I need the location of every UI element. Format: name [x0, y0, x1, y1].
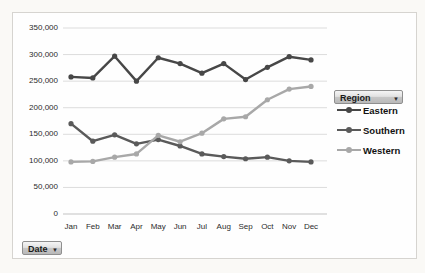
date-filter-button[interactable]: Date ▼ [22, 241, 62, 255]
dropdown-arrow-icon: ▼ [393, 93, 399, 105]
data-point-marker [287, 87, 292, 92]
x-axis-tick-label: Jun [168, 222, 192, 232]
x-axis-tick-label: Oct [255, 222, 279, 232]
series-line-eastern [68, 54, 313, 84]
data-point-marker [221, 61, 226, 66]
data-point-marker [134, 141, 139, 146]
legend-item-western: Western [337, 144, 400, 156]
x-axis-tick-label: May [146, 222, 170, 232]
data-point-marker [90, 139, 95, 144]
data-point-marker [112, 54, 117, 59]
y-axis-tick-label: 300,000 [13, 50, 58, 60]
date-button-label: Date [28, 243, 48, 255]
data-point-marker [90, 75, 95, 80]
x-axis-tick-label: Nov [277, 222, 301, 232]
legend-marker-icon [337, 106, 361, 114]
data-point-marker [178, 139, 183, 144]
data-point-marker [221, 116, 226, 121]
data-point-marker [112, 132, 117, 137]
y-axis-tick-label: 50,000 [13, 182, 58, 192]
data-point-marker [265, 155, 270, 160]
data-point-marker [308, 57, 313, 62]
legend-item-southern: Southern [337, 124, 405, 136]
x-axis-tick-label: Apr [124, 222, 148, 232]
x-axis-tick-label: Jan [59, 222, 83, 232]
data-point-marker [68, 159, 73, 164]
legend-marker-icon [337, 126, 361, 134]
data-point-marker [287, 158, 292, 163]
data-point-marker [156, 55, 161, 60]
legend-marker-icon [337, 146, 361, 154]
y-axis-tick-label: 150,000 [13, 129, 58, 139]
x-axis-tick-label: Feb [81, 222, 105, 232]
legend-item-eastern: Eastern [337, 104, 398, 116]
y-axis-tick-label: 200,000 [13, 103, 58, 113]
x-axis-tick-label: Aug [212, 222, 236, 232]
data-point-marker [243, 77, 248, 82]
data-point-marker [90, 159, 95, 164]
data-point-marker [308, 159, 313, 164]
data-point-marker [68, 121, 73, 126]
pivot-chart-window: 050,000100,000150,000200,000250,000300,0… [0, 0, 425, 273]
data-point-marker [308, 84, 313, 89]
y-axis-tick-label: 100,000 [13, 156, 58, 166]
y-axis-tick-label: 0 [13, 209, 58, 219]
data-point-marker [265, 97, 270, 102]
region-button-label: Region [340, 92, 371, 104]
data-point-marker [287, 54, 292, 59]
data-point-marker [199, 131, 204, 136]
data-point-marker [265, 65, 270, 70]
data-point-marker [199, 71, 204, 76]
data-point-marker [134, 151, 139, 156]
x-axis-tick-label: Mar [103, 222, 127, 232]
data-point-marker [134, 79, 139, 84]
legend-label: Eastern [363, 105, 398, 116]
legend-label: Southern [363, 125, 405, 136]
x-axis-tick-label: Sep [234, 222, 258, 232]
series-line-western [68, 84, 313, 165]
data-point-marker [112, 155, 117, 160]
data-point-marker [243, 156, 248, 161]
chart-frame: 050,000100,000150,000200,000250,000300,0… [12, 12, 417, 259]
data-point-marker [199, 151, 204, 156]
y-axis-tick-label: 250,000 [13, 76, 58, 86]
data-point-marker [221, 154, 226, 159]
x-axis-tick-label: Jul [190, 222, 214, 232]
region-filter-button[interactable]: Region ▼ [334, 90, 403, 104]
data-point-marker [156, 133, 161, 138]
y-axis-tick-label: 350,000 [13, 23, 58, 33]
x-axis-tick-label: Dec [299, 222, 323, 232]
data-point-marker [178, 61, 183, 66]
data-point-marker [68, 74, 73, 79]
dropdown-arrow-icon: ▼ [52, 244, 58, 256]
data-point-marker [243, 114, 248, 119]
legend-label: Western [363, 145, 400, 156]
